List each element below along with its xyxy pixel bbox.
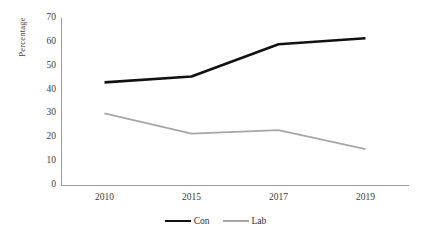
chart-legend: ConLab <box>0 213 431 229</box>
x-axis-tick-labels: 2010201520172019 <box>61 191 409 205</box>
legend-entry-con[interactable]: Con <box>165 215 210 227</box>
legend-line-swatch-lab-icon <box>223 220 249 222</box>
legend-entry-lab[interactable]: Lab <box>223 215 267 227</box>
series-line-lab <box>105 113 366 149</box>
line-chart-figure: Percentage 706050403020100 2010201520172… <box>0 0 431 241</box>
x-axis-tick-label: 2017 <box>249 191 309 203</box>
series-line-con <box>105 38 366 82</box>
x-axis-tick-label: 2015 <box>162 191 222 203</box>
x-axis-tick-label: 2019 <box>336 191 396 203</box>
legend-label: Lab <box>252 215 267 227</box>
x-axis-tick-label: 2010 <box>75 191 135 203</box>
legend-label: Con <box>194 215 210 227</box>
legend-line-swatch-con-icon <box>165 220 191 223</box>
